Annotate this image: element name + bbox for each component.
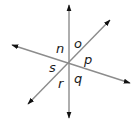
angle-label-r: r — [58, 76, 65, 91]
line-upperleft-lowerright — [12, 45, 130, 83]
angle-label-q: q — [74, 71, 82, 86]
intersecting-lines-diagram: n o p q r s — [0, 0, 139, 123]
angle-label-n: n — [56, 41, 64, 56]
angle-label-s: s — [49, 60, 56, 75]
angle-label-o: o — [74, 36, 82, 51]
angle-label-p: p — [83, 52, 92, 67]
diagram-svg: n o p q r s — [0, 0, 139, 123]
